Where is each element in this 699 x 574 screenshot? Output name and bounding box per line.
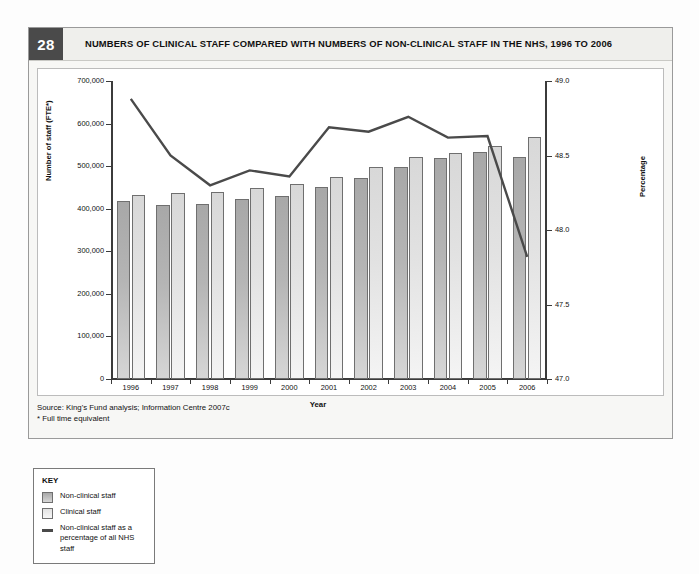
footnote: * Full time equivalent bbox=[37, 413, 664, 424]
figure-header: 28 NUMBERS OF CLINICAL STAFF COMPARED WI… bbox=[29, 28, 672, 61]
bar-clinical bbox=[290, 184, 304, 379]
x-tick bbox=[547, 380, 548, 384]
bar-non-clinical bbox=[275, 196, 289, 379]
y-right-tick bbox=[547, 156, 552, 157]
y-right-tick-label: 48.5 bbox=[555, 151, 595, 160]
bar-non-clinical bbox=[473, 152, 487, 379]
key-item-percentage-line: Non-clinical staff as a percentage of al… bbox=[42, 523, 146, 554]
y-right-tick-label: 49.0 bbox=[555, 76, 595, 85]
x-tick-label: 2003 bbox=[388, 383, 428, 392]
bar-non-clinical bbox=[315, 187, 329, 379]
bar-non-clinical bbox=[434, 158, 448, 379]
bar-clinical bbox=[488, 146, 502, 379]
figure-number-badge: 28 bbox=[29, 28, 63, 60]
line-swatch-icon bbox=[42, 524, 53, 535]
plot-card: 0100,000200,000300,000400,000500,000600,… bbox=[37, 68, 664, 396]
x-tick-label: 1999 bbox=[230, 383, 270, 392]
page-root: 28 NUMBERS OF CLINICAL STAFF COMPARED WI… bbox=[0, 0, 699, 574]
key-title: KEY bbox=[42, 476, 146, 485]
bar-clinical bbox=[330, 177, 344, 379]
bar-non-clinical bbox=[235, 199, 249, 379]
bar-non-clinical bbox=[354, 178, 368, 379]
y-right-tick-label: 48.0 bbox=[555, 225, 595, 234]
chart-plot-area: 0100,000200,000300,000400,000500,000600,… bbox=[38, 69, 665, 397]
figure-title: NUMBERS OF CLINICAL STAFF COMPARED WITH … bbox=[85, 39, 612, 49]
y-left-tick-label: 300,000 bbox=[38, 246, 104, 255]
key-item-non-clinical: Non-clinical staff bbox=[42, 491, 146, 503]
bar-non-clinical bbox=[394, 167, 408, 379]
bar-clinical bbox=[409, 157, 423, 379]
y-right-tick bbox=[547, 230, 552, 231]
key-label-clinical: Clinical staff bbox=[60, 507, 101, 517]
source-note: Source: King's Fund analysis; Informatio… bbox=[37, 402, 664, 413]
key-label-non-clinical: Non-clinical staff bbox=[60, 491, 116, 501]
figure-footer: Source: King's Fund analysis; Informatio… bbox=[37, 402, 664, 425]
y-left-tick-label: 400,000 bbox=[38, 204, 104, 213]
key-item-clinical: Clinical staff bbox=[42, 507, 146, 519]
x-tick-label: 2006 bbox=[507, 383, 547, 392]
y-left-tick-label: 100,000 bbox=[38, 331, 104, 340]
x-tick-label: 1998 bbox=[190, 383, 230, 392]
bar-non-clinical bbox=[117, 201, 131, 379]
y-axis-right-title: Percentage bbox=[638, 156, 647, 197]
x-tick-label: 1997 bbox=[151, 383, 191, 392]
bar-clinical bbox=[132, 195, 146, 379]
y-right-tick bbox=[547, 81, 552, 82]
bar-clinical bbox=[211, 192, 225, 379]
y-left-tick-label: 700,000 bbox=[38, 76, 104, 85]
clinical-swatch-icon bbox=[42, 508, 53, 519]
bar-clinical bbox=[250, 188, 264, 379]
x-tick-label: 2001 bbox=[309, 383, 349, 392]
bar-clinical bbox=[369, 167, 383, 379]
bar-group bbox=[111, 81, 547, 379]
x-tick-label: 2000 bbox=[270, 383, 310, 392]
bar-non-clinical bbox=[196, 204, 210, 379]
key-label-percentage-line: Non-clinical staff as a percentage of al… bbox=[60, 523, 146, 554]
y-right-tick-label: 47.0 bbox=[555, 374, 595, 383]
figure-panel: 28 NUMBERS OF CLINICAL STAFF COMPARED WI… bbox=[28, 27, 673, 439]
x-tick-label: 1996 bbox=[111, 383, 151, 392]
y-left-tick-label: 200,000 bbox=[38, 289, 104, 298]
key-legend-box: KEY Non-clinical staff Clinical staff No… bbox=[33, 468, 155, 564]
bar-non-clinical bbox=[156, 205, 170, 379]
y-axis-left-title: Number of staff (FTE*) bbox=[44, 100, 53, 181]
y-right-tick bbox=[547, 305, 552, 306]
y-left-tick-label: 0 bbox=[38, 374, 104, 383]
bar-clinical bbox=[171, 193, 185, 379]
bar-non-clinical bbox=[513, 157, 527, 379]
bar-clinical bbox=[449, 153, 463, 379]
x-tick-label: 2002 bbox=[349, 383, 389, 392]
bar-clinical bbox=[528, 137, 542, 379]
x-tick-label: 2004 bbox=[428, 383, 468, 392]
non-clinical-swatch-icon bbox=[42, 492, 53, 503]
x-tick-label: 2005 bbox=[468, 383, 508, 392]
y-right-tick-label: 47.5 bbox=[555, 300, 595, 309]
